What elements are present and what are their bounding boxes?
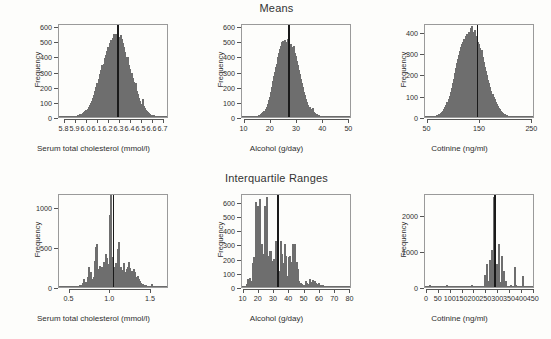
x-tick [426, 289, 427, 293]
x-tick [450, 289, 451, 293]
x-tick [427, 119, 428, 123]
y-tick-label: 0 [48, 284, 52, 293]
x-tick-label: 250 [479, 294, 491, 303]
y-tick [420, 252, 424, 253]
y-tick-label: 0 [414, 114, 418, 123]
plot-baseline-bottom-right [425, 286, 533, 287]
chart-panel-top-right: 010020030040050150250Cotinine (ng/ml)Fre… [368, 0, 551, 169]
x-tick [485, 289, 486, 293]
x-axis-top-left: 5.85.96.06.16.26.36.46.56.66.7 [58, 119, 168, 135]
x-tick [150, 289, 151, 293]
y-tick-label: 400 [223, 227, 235, 236]
x-tick-label: 100 [444, 294, 456, 303]
chart-title-bottom-middle: Interquartile Ranges [185, 172, 368, 184]
reference-line-top-left [117, 25, 119, 117]
x-axis-top-right: 50150250 [424, 119, 534, 135]
x-tick [69, 289, 70, 293]
x-tick-label: 450 [527, 294, 539, 303]
y-tick-label: 400 [406, 28, 418, 37]
x-tick-label: 6.5 [136, 124, 146, 133]
x-tick-label: 0 [424, 294, 428, 303]
y-tick-label: 600 [40, 23, 52, 32]
y-tick [420, 97, 424, 98]
histogram-bars-top-left [59, 25, 167, 117]
x-tick [258, 289, 259, 293]
y-tick-label: 100 [406, 92, 418, 101]
y-tick-label: 300 [223, 241, 235, 250]
y-axis-label-bottom-left: Frequency [33, 205, 42, 275]
y-axis-label-top-left: Frequency [33, 35, 42, 105]
x-tick [273, 289, 274, 293]
y-tick-label: 0 [48, 114, 52, 123]
x-axis-bottom-right: 050100150200250300350400450 [424, 289, 534, 305]
x-tick-label: 350 [503, 294, 515, 303]
x-tick [108, 119, 109, 123]
y-tick [237, 260, 241, 261]
x-axis-line [64, 119, 163, 120]
x-tick-label: 40 [284, 294, 292, 303]
x-tick-label: 40 [318, 124, 326, 133]
x-tick [244, 119, 245, 123]
multi-panel-histogram-figure: 01002003004005006005.85.96.06.16.26.36.4… [0, 0, 551, 339]
y-tick [420, 54, 424, 55]
x-tick-label: 150 [473, 124, 485, 133]
x-axis-top-middle: 1020304050 [241, 119, 351, 135]
y-tick [54, 57, 58, 58]
x-tick-label: 50 [434, 294, 442, 303]
y-tick [237, 231, 241, 232]
y-tick [54, 27, 58, 28]
x-tick [163, 119, 164, 123]
chart-panel-bottom-right: 010002000050100150200250300350400450Coti… [368, 170, 551, 339]
x-tick [109, 289, 110, 293]
reference-line-bottom-left [113, 195, 115, 287]
y-tick-label: 600 [223, 198, 235, 207]
x-tick-label: 6.2 [103, 124, 113, 133]
reference-line-bottom-right [494, 195, 496, 287]
x-tick [119, 119, 120, 123]
x-tick [348, 119, 349, 123]
x-tick-label: 1.0 [104, 294, 114, 303]
histogram-bars-bottom-middle [242, 195, 350, 287]
x-tick [473, 289, 474, 293]
x-tick [521, 289, 522, 293]
x-tick-label: 400 [515, 294, 527, 303]
x-tick [479, 119, 480, 123]
y-tick [237, 42, 241, 43]
plot-baseline-top-middle [242, 116, 350, 117]
y-tick-label: 0 [231, 284, 235, 293]
y-tick-label: 400 [40, 53, 52, 62]
x-tick [438, 289, 439, 293]
y-tick [54, 208, 58, 209]
x-tick-label: 0.5 [64, 294, 74, 303]
plot-area-bottom-middle [241, 194, 351, 288]
x-tick [349, 289, 350, 293]
y-tick [237, 57, 241, 58]
x-tick-label: 30 [269, 294, 277, 303]
x-tick-label: 6.6 [147, 124, 157, 133]
reference-line-top-middle [288, 25, 290, 117]
y-tick [420, 216, 424, 217]
y-tick [54, 103, 58, 104]
y-tick-label: 300 [40, 68, 52, 77]
x-tick [243, 289, 244, 293]
reference-line-bottom-middle [277, 195, 279, 287]
x-tick [533, 289, 534, 293]
x-tick-label: 20 [254, 294, 262, 303]
y-tick [237, 245, 241, 246]
y-axis-label-bottom-middle: Frequency [216, 205, 225, 275]
y-axis-label-bottom-right: Frequency [399, 205, 408, 275]
x-axis-label-bottom-left: Serum total cholesterol (mmol/l) [2, 314, 185, 323]
x-tick [296, 119, 297, 123]
x-tick [75, 119, 76, 123]
x-tick [319, 289, 320, 293]
y-tick-label: 500 [223, 212, 235, 221]
x-axis-label-bottom-middle: Alcohol (g/day) [185, 314, 368, 323]
x-tick-label: 10 [239, 294, 247, 303]
x-tick-label: 6.4 [125, 124, 135, 133]
y-tick-label: 200 [223, 255, 235, 264]
y-tick-label: 500 [40, 38, 52, 47]
x-axis-bottom-middle: 1020304050607080 [241, 289, 351, 305]
y-tick [237, 88, 241, 89]
y-tick-label: 500 [40, 244, 52, 253]
y-tick-label: 200 [223, 83, 235, 92]
